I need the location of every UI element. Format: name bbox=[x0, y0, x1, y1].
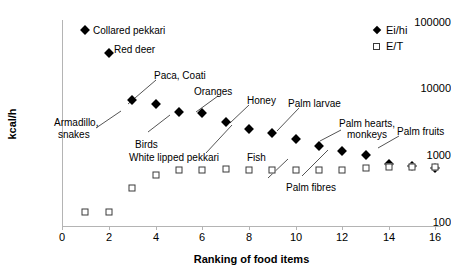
annotation-palm-fruits: Palm fruits bbox=[397, 126, 444, 137]
data-point-et-14 bbox=[386, 164, 393, 171]
annotation-white-lipped-pekkari: White lipped pekkari bbox=[129, 152, 219, 163]
leader-palm-hearts-monkeys bbox=[320, 130, 341, 141]
data-point-eihi-13 bbox=[361, 150, 371, 160]
x-tick-label-14: 14 bbox=[377, 232, 401, 243]
x-tick-label-4: 4 bbox=[144, 232, 168, 243]
x-tick-label-16: 16 bbox=[423, 232, 447, 243]
annotation-collared-pekkari: Collared pekkari bbox=[93, 25, 165, 36]
data-point-eihi-2 bbox=[104, 48, 114, 58]
data-point-et-7 bbox=[223, 166, 230, 173]
data-point-et-9 bbox=[269, 167, 276, 174]
data-point-et-16 bbox=[432, 164, 439, 171]
x-tick-label-6: 6 bbox=[190, 232, 214, 243]
x-tick-label-0: 0 bbox=[50, 232, 74, 243]
data-point-et-5 bbox=[176, 167, 183, 174]
x-axis-line bbox=[62, 226, 441, 227]
leader-palm-larvae bbox=[277, 108, 299, 131]
x-tick-0 bbox=[62, 226, 63, 230]
data-point-et-1 bbox=[82, 209, 89, 216]
x-tick-label-8: 8 bbox=[237, 232, 261, 243]
data-point-et-10 bbox=[293, 167, 300, 174]
y-tick-label-10000: 10000 bbox=[395, 83, 451, 94]
annotation-honey: Honey bbox=[247, 95, 276, 106]
data-point-et-6 bbox=[199, 167, 206, 174]
x-tick-label-12: 12 bbox=[330, 232, 354, 243]
scatter-chart: 100000 10000 1000 100 0 2 4 6 8 10 12 14… bbox=[0, 0, 451, 276]
x-tick-14 bbox=[389, 226, 390, 230]
annotation-armadillo: Armadillo, bbox=[54, 117, 98, 128]
annotation-palm-hearts: Palm hearts, bbox=[339, 118, 395, 129]
data-point-eihi-10 bbox=[291, 134, 301, 144]
annotation-birds: Birds bbox=[135, 139, 158, 150]
x-tick-2 bbox=[109, 226, 110, 230]
data-point-eihi-3 bbox=[127, 95, 137, 105]
data-point-eihi-8 bbox=[244, 124, 254, 134]
legend-label-eihi: Ei/hi bbox=[386, 22, 407, 38]
data-point-eihi-5 bbox=[174, 107, 184, 117]
annotation-paca-coati: Paca, Coati bbox=[154, 70, 206, 81]
x-tick-16 bbox=[435, 226, 436, 230]
x-tick-10 bbox=[296, 226, 297, 230]
annotation-monkeys: monkeys bbox=[347, 129, 387, 140]
leader-white-lipped-pekkari bbox=[206, 125, 232, 153]
y-axis-title: kcal/h bbox=[6, 94, 18, 154]
annotation-fish: Fish bbox=[247, 152, 266, 163]
annotation-snakes: snakes bbox=[58, 129, 90, 140]
leader-armadillo-snakes bbox=[96, 111, 121, 128]
data-point-et-8 bbox=[246, 167, 253, 174]
leader-honey bbox=[230, 105, 249, 123]
legend-label-et: E/T bbox=[386, 38, 403, 54]
open-square-icon bbox=[373, 43, 380, 50]
x-tick-6 bbox=[202, 226, 203, 230]
data-point-et-13 bbox=[363, 165, 370, 172]
data-point-et-3 bbox=[129, 185, 136, 192]
annotation-red-deer: Red deer bbox=[114, 44, 155, 55]
x-tick-4 bbox=[156, 226, 157, 230]
data-point-eihi-12 bbox=[337, 146, 347, 156]
data-point-et-15 bbox=[409, 164, 416, 171]
data-point-eihi-1 bbox=[80, 25, 90, 35]
annotation-palm-larvae: Palm larvae bbox=[288, 98, 341, 109]
data-point-eihi-6 bbox=[197, 108, 207, 118]
leader-birds bbox=[148, 115, 170, 132]
x-tick-8 bbox=[249, 226, 250, 230]
x-tick-12 bbox=[342, 226, 343, 230]
data-point-et-11 bbox=[316, 167, 323, 174]
data-point-eihi-9 bbox=[267, 128, 277, 138]
x-tick-label-10: 10 bbox=[284, 232, 308, 243]
annotation-palm-fibres: Palm fibres bbox=[286, 182, 336, 193]
x-tick-label-2: 2 bbox=[97, 232, 121, 243]
y-tick-label-100: 100 bbox=[395, 217, 451, 228]
data-point-et-4 bbox=[153, 172, 160, 179]
filled-diamond-icon bbox=[373, 26, 381, 34]
data-point-eihi-7 bbox=[221, 117, 231, 127]
data-point-et-12 bbox=[339, 167, 346, 174]
x-axis-title: Ranking of food items bbox=[62, 253, 441, 265]
annotation-oranges: Oranges bbox=[194, 86, 232, 97]
y-tick-label-1000: 1000 bbox=[395, 150, 451, 161]
data-point-eihi-4 bbox=[151, 99, 161, 109]
data-point-et-2 bbox=[106, 209, 113, 216]
data-point-eihi-11 bbox=[314, 141, 324, 151]
